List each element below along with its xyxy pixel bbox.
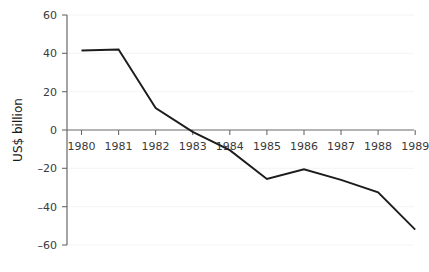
x-axis-tickmarks: [82, 130, 416, 135]
x-tick-label-1986: 1986: [290, 140, 318, 153]
y-tick-label-minus-60: –60: [38, 239, 58, 252]
y-axis-tickmarks: [62, 15, 67, 245]
y-tick-label-60: 60: [43, 9, 57, 22]
x-axis-tick-labels: 1980 1981 1982 1983 1984 1985 1986 1987 …: [68, 140, 429, 153]
x-tick-label-1989: 1989: [401, 140, 429, 153]
x-tick-label-1985: 1985: [253, 140, 281, 153]
x-tick-label-1988: 1988: [364, 140, 392, 153]
y-tick-label-0: 0: [50, 124, 57, 137]
x-tick-label-1980: 1980: [68, 140, 96, 153]
y-axis-title: US$ billion: [11, 98, 25, 162]
x-tick-label-1981: 1981: [105, 140, 133, 153]
line-chart: 60 40 20 0 –20 –40 –60 US$ billion: [0, 0, 429, 272]
x-tick-label-1983: 1983: [179, 140, 207, 153]
y-tick-label-20: 20: [43, 86, 57, 99]
x-tick-label-1987: 1987: [327, 140, 355, 153]
y-tick-label-minus-20: –20: [38, 162, 58, 175]
y-tick-label-minus-40: –40: [38, 201, 58, 214]
x-tick-label-1982: 1982: [142, 140, 170, 153]
y-tick-label-40: 40: [43, 47, 57, 60]
chart-figure: 60 40 20 0 –20 –40 –60 US$ billion: [0, 0, 429, 272]
y-axis-tick-labels: 60 40 20 0 –20 –40 –60: [38, 9, 58, 252]
